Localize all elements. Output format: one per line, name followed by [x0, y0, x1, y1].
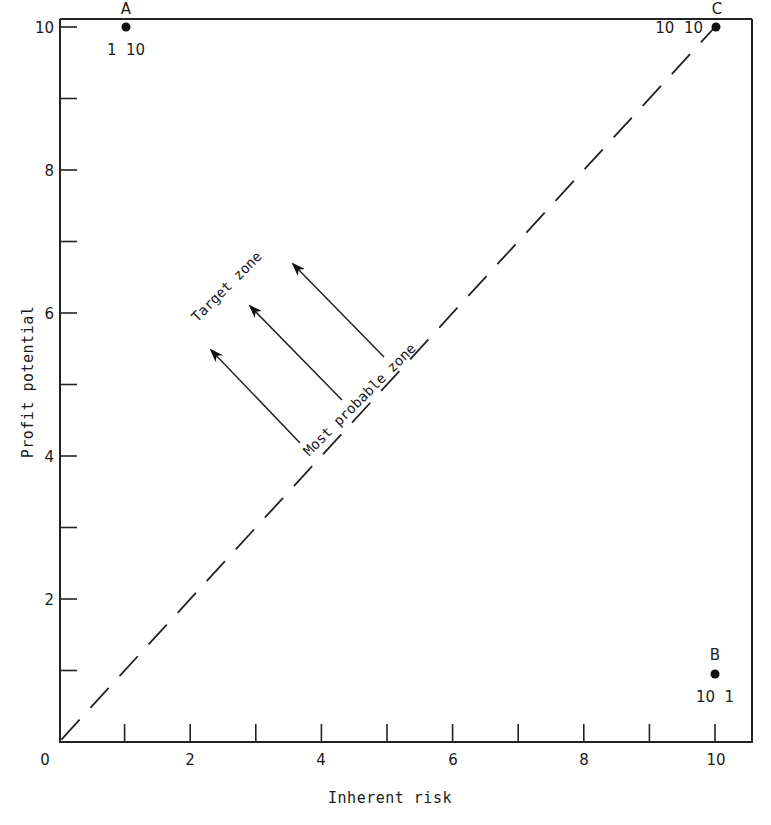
y-tick-label-10: 10: [35, 19, 54, 37]
x-tick-labels: 0 2 4 6 8 10: [40, 751, 725, 769]
point-a-coords: 1 10: [107, 41, 145, 59]
y-tick-label-8: 8: [44, 162, 54, 180]
plot-frame: [59, 19, 753, 742]
point-a-label: A: [121, 0, 132, 18]
risk-profit-chart: 0 2 4 6 8 10 2 4 6 8 10 Inherent risk Pr…: [0, 0, 771, 825]
y-axis-title: Profit potential: [19, 306, 37, 459]
y-axis-ticks: [60, 27, 77, 671]
x-tick-label-8: 8: [579, 751, 589, 769]
x-tick-label-10: 10: [706, 751, 725, 769]
point-c-label: C: [712, 0, 722, 18]
arrow-icon: [250, 306, 342, 400]
arrow-icon: [211, 350, 300, 443]
y-tick-label-6: 6: [44, 305, 54, 323]
origin-label: 0: [40, 751, 50, 769]
point-a: A 1 10: [107, 0, 145, 59]
point-c-coords: 10 10: [655, 19, 703, 37]
most-probable-zone-label: Most probable zone: [300, 340, 419, 459]
point-c-marker: [712, 23, 721, 32]
x-tick-label-4: 4: [316, 751, 326, 769]
point-b-coords: 10 1: [696, 688, 734, 706]
point-b-label: B: [710, 646, 720, 664]
y-tick-label-2: 2: [44, 591, 54, 609]
x-tick-label-2: 2: [185, 751, 195, 769]
x-axis-title: Inherent risk: [328, 789, 452, 807]
point-b-marker: [711, 670, 720, 679]
point-a-marker: [122, 23, 131, 32]
arrow-icon: [293, 264, 384, 357]
x-tick-label-6: 6: [448, 751, 458, 769]
y-tick-label-4: 4: [44, 448, 54, 466]
point-b: B 10 1: [696, 646, 734, 706]
x-axis-ticks: [125, 724, 715, 742]
most-probable-zone-line: [60, 27, 715, 741]
y-tick-labels: 2 4 6 8 10: [35, 19, 54, 609]
target-zone-label: Target zone: [188, 248, 265, 325]
